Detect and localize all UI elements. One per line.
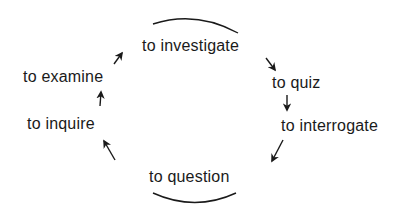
arrow-investigate-to-quiz: [266, 58, 275, 70]
top-arc: [153, 19, 238, 33]
bottom-arc: [153, 193, 236, 203]
node-question: to question: [149, 167, 229, 187]
arrow-inquire-to-examine: [100, 92, 101, 106]
arrow-examine-to-investigate: [114, 53, 122, 64]
node-inquire: to inquire: [27, 114, 95, 134]
node-examine: to examine: [23, 67, 103, 87]
node-investigate: to investigate: [142, 36, 239, 56]
node-interrogate: to interrogate: [281, 116, 378, 136]
node-quiz: to quiz: [272, 73, 321, 93]
arrow-interrogate-to-question: [272, 140, 283, 161]
arrow-question-to-inquire: [104, 141, 115, 160]
